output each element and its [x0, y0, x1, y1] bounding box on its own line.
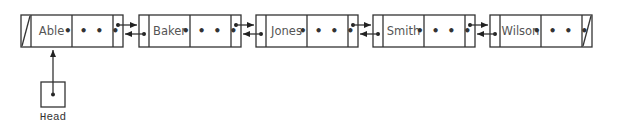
node-data-ellipsis: • • • • — [533, 24, 590, 38]
head-pointer: Head — [40, 50, 66, 123]
list-node-smith: Smith • • • • — [373, 15, 475, 47]
list-node-baker: Baker • • • • — [139, 15, 241, 47]
node-label: Able — [39, 24, 64, 38]
node-data-ellipsis: • • • • — [416, 24, 473, 38]
list-node-wilson: Wilson • • • • — [490, 15, 592, 47]
node-data-ellipsis: • • • • — [64, 24, 121, 38]
doubly-linked-list-diagram: Able • • • • Baker • • • • Jones • • • •… — [0, 0, 617, 126]
node-data-ellipsis: • • • • — [299, 24, 356, 38]
head-label: Head — [40, 111, 66, 123]
node-label: Jones — [270, 24, 302, 38]
list-node-jones: Jones • • • • — [256, 15, 358, 47]
list-node-able: Able • • • • — [21, 15, 123, 47]
node-data-ellipsis: • • • • — [182, 24, 239, 38]
